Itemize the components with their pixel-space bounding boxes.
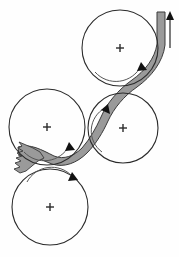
roller-top xyxy=(82,10,158,86)
web-travel-arrow-head xyxy=(166,11,174,20)
roller-middle-left xyxy=(9,89,85,165)
figure-canvas xyxy=(0,0,179,257)
web-travel-arrow xyxy=(166,11,174,48)
roller-bottom xyxy=(12,167,88,245)
roller-web-figure: Paper web threading through roller nip s… xyxy=(0,0,179,257)
roller-middle-right xyxy=(88,93,158,163)
